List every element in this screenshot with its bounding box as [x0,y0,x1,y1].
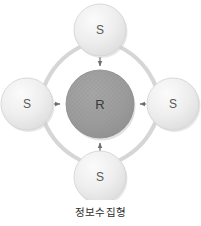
radial-network-diagram: R S S S S [0,0,201,200]
node-label-bottom: S [96,170,104,184]
figure-container: R S S S S 정보수집형 [0,0,201,226]
hub-label: R [95,97,104,112]
hub-node-r[interactable]: R [66,70,136,141]
node-label-right: S [169,97,177,111]
node-label-top: S [96,23,104,37]
node-label-left: S [23,97,31,111]
figure-caption: 정보수집형 [0,204,201,219]
satellite-node-top[interactable]: S [74,4,128,58]
